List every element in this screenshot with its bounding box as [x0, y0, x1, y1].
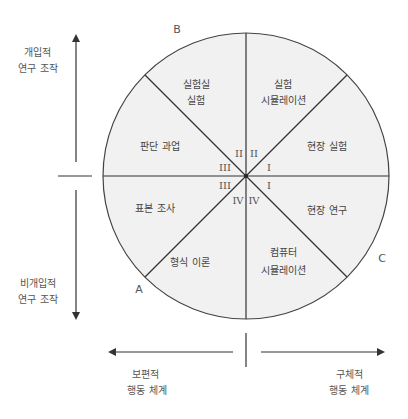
particular-label-line1: 구체적	[336, 369, 363, 380]
segment-label-judgment-task: 판단 과업	[140, 140, 179, 152]
numeral-upper-left-bottom: III	[219, 162, 231, 173]
segment-label-computer-simulation: 컴퓨터	[270, 247, 297, 258]
numeral-upper-right-top: II	[250, 148, 258, 159]
corner-label-b: B	[173, 23, 181, 36]
particular-label-line2: 행동 체계	[329, 385, 368, 396]
corner-label-c: C	[378, 252, 386, 265]
segment-label-experimental-simulation-2: 시뮬레이션	[261, 95, 306, 106]
numeral-lower-right-top: I	[267, 180, 271, 191]
corner-label-a: A	[135, 283, 143, 296]
segment-label-field-study: 현장 연구	[307, 205, 346, 216]
non-intrusive-label-line1: 비개입적	[20, 277, 56, 289]
segment-label-formal-theory: 형식 이론	[170, 257, 209, 268]
universal-label-line1: 보편적	[132, 369, 159, 380]
research-strategy-circle-diagram: 실험실 실험 실험 시뮬레이션 현장 실험 현장 연구 컴퓨터 시뮬레이션 형식…	[0, 0, 408, 419]
non-intrusive-label-line2: 연구 조작	[18, 294, 57, 305]
numeral-lower-left-top: III	[219, 180, 231, 191]
numeral-upper-right-bottom: I	[267, 162, 271, 173]
segment-label-lab-experiment-2: 실험	[187, 95, 205, 106]
intrusive-label-line1: 개입적	[24, 46, 51, 58]
numeral-lower-left-bottom: IV	[232, 195, 244, 206]
center-point	[244, 174, 248, 178]
segment-label-computer-simulation-2: 시뮬레이션	[261, 265, 306, 276]
segment-label-lab-experiment: 실험실	[183, 79, 210, 90]
segment-label-experimental-simulation: 실험	[274, 79, 292, 90]
numeral-lower-right-bottom: IV	[248, 195, 260, 206]
segment-label-sample-survey: 표본 조사	[135, 203, 174, 214]
horizontal-axis	[110, 333, 383, 367]
segment-label-field-experiment: 현장 실험	[307, 141, 346, 152]
numeral-upper-left-top: II	[235, 148, 243, 159]
vertical-axis	[58, 36, 92, 318]
intrusive-label-line2: 연구 조작	[18, 63, 57, 74]
universal-label-line2: 행동 체계	[127, 385, 166, 396]
